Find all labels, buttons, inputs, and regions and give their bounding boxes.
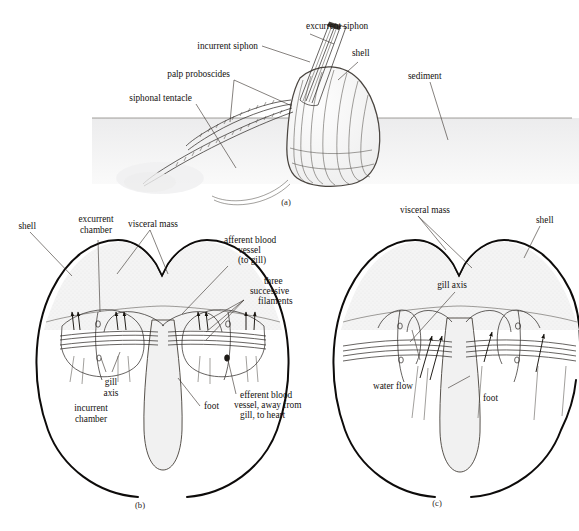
label-three-filaments-line3: filaments — [258, 296, 293, 306]
leader-palp-1 — [234, 80, 292, 106]
panel-a-group: excurrent siphon incurrent siphon palp p… — [92, 21, 579, 207]
panel-b-group: shell excurrent chamber visceral mass af… — [18, 214, 302, 510]
label-water-flow-c: water flow — [373, 381, 413, 391]
label-afferent-line2: vessel — [238, 245, 261, 255]
label-incurrent-chamber-line1: incurrent — [74, 403, 108, 413]
label-palp-proboscides: palp proboscides — [167, 69, 230, 79]
label-afferent-line1: afferent blood — [224, 235, 277, 245]
label-shell-c: shell — [536, 215, 554, 225]
leader-shell-b — [30, 232, 72, 276]
label-excurrent-chamber-line2: chamber — [80, 225, 113, 235]
figure-svg: excurrent siphon incurrent siphon palp p… — [0, 0, 579, 531]
leader-gill-axis-b2 — [112, 352, 120, 372]
leader-efferent-vessel — [228, 360, 236, 394]
label-efferent-line1: efferent blood — [240, 390, 293, 400]
figure-canvas: excurrent siphon incurrent siphon palp p… — [0, 0, 579, 531]
label-efferent-line3: gill, to heart — [240, 410, 286, 420]
label-incurrent-chamber-line2: chamber — [75, 414, 108, 424]
label-gill-axis-b-line2: axis — [104, 388, 119, 398]
foot-b — [144, 320, 182, 470]
panel-letter-b: (b) — [135, 500, 145, 510]
label-afferent-line3: (to gill) — [238, 255, 266, 266]
leader-palp-2 — [230, 80, 234, 122]
label-shell-b: shell — [18, 221, 36, 231]
label-three-filaments-line2: successive — [250, 286, 289, 296]
label-sediment: sediment — [408, 71, 442, 81]
label-siphonal-tentacle: siphonal tentacle — [129, 93, 192, 103]
panel-c-group: visceral mass shell gill axis water flow… — [333, 205, 579, 508]
label-foot-c: foot — [483, 393, 498, 403]
label-shell-a: shell — [352, 48, 370, 58]
panel-letter-c: (c) — [432, 498, 442, 508]
panel-letter-a: (a) — [281, 197, 291, 207]
label-incurrent-siphon: incurrent siphon — [197, 41, 258, 51]
label-three-filaments-line1: three — [264, 276, 283, 286]
label-excurrent-siphon: excurrent siphon — [306, 21, 369, 31]
leader-incurrent-siphon — [262, 46, 310, 62]
label-foot-b: foot — [204, 401, 219, 411]
label-gill-axis-c: gill axis — [437, 280, 467, 290]
label-efferent-line2: vessel, away from — [234, 400, 302, 410]
clam-shell-a — [287, 67, 380, 187]
leader-gill-axis-b1 — [101, 358, 106, 372]
label-gill-axis-b-line1: gill — [105, 377, 118, 387]
label-visceral-mass-b: visceral mass — [128, 219, 178, 229]
label-visceral-mass-c: visceral mass — [400, 205, 450, 215]
label-excurrent-chamber-line1: excurrent — [78, 214, 114, 224]
